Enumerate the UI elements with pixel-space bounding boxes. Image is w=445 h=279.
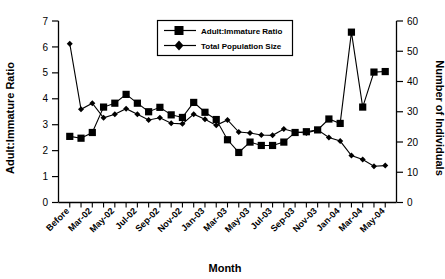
y-axis-right-tick-label: 0 <box>407 197 413 208</box>
square-data-marker <box>337 120 344 127</box>
square-data-marker <box>123 91 130 98</box>
diamond-data-marker <box>270 132 276 138</box>
x-axis-tick-label: Before <box>44 206 71 233</box>
x-axis-tick-label: Jan-04 <box>314 206 341 233</box>
square-data-marker <box>168 111 175 118</box>
square-data-marker <box>66 133 73 140</box>
square-data-marker <box>134 100 141 107</box>
y-axis-left-tick-label: 4 <box>42 93 48 104</box>
square-data-marker <box>280 138 287 145</box>
square-data-marker <box>77 135 84 142</box>
square-data-marker <box>359 103 366 110</box>
y-axis-left-tick-label: 1 <box>42 171 48 182</box>
y-axis-right-ticks: 0102030405060 <box>397 16 419 209</box>
y-axis-left-ticks: 01234567 <box>42 16 58 209</box>
chart-plot-area: Adult:Immature Ratio Number of Individua… <box>0 0 445 279</box>
x-axis-tick-label: Nov-03 <box>291 206 319 234</box>
square-data-marker <box>348 29 355 36</box>
y-axis-right-tick-label: 10 <box>407 167 419 178</box>
y-axis-right-title: Number of Individuals <box>434 60 445 176</box>
square-data-marker <box>258 142 265 149</box>
legend-label-adult-immature-ratio: Adult:Immature Ratio <box>201 27 282 36</box>
legend-label-total-population-size: Total Population Size <box>201 42 282 51</box>
legend-entry-adult-immature-ratio: Adult:Immature Ratio <box>164 26 282 36</box>
square-data-marker <box>201 109 208 116</box>
x-axis-tick-label: Nov-02 <box>156 206 184 234</box>
diamond-data-marker <box>123 106 129 112</box>
square-data-marker <box>156 104 163 111</box>
square-data-marker <box>100 103 107 110</box>
square-data-marker <box>179 114 186 121</box>
diamond-data-marker <box>134 111 140 117</box>
diamond-data-marker <box>202 116 208 122</box>
diamond-data-marker <box>371 163 377 169</box>
y-axis-left-tick-label: 0 <box>42 197 48 208</box>
x-axis-title: Month <box>209 262 242 274</box>
square-data-marker <box>303 128 310 135</box>
y-axis-left-tick-label: 7 <box>42 16 48 27</box>
diamond-data-marker <box>146 117 152 123</box>
x-axis-ticks <box>70 203 385 208</box>
square-data-marker <box>292 129 299 136</box>
square-data-marker <box>325 115 332 122</box>
square-data-marker <box>190 99 197 106</box>
x-axis-tick-labels: BeforeMar-02May-02Jul-02Sep-02Nov-02Jan-… <box>44 206 387 235</box>
square-data-marker <box>145 108 152 115</box>
x-axis-tick-label: May-04 <box>358 206 387 235</box>
y-axis-left-tick-label: 5 <box>42 67 48 78</box>
x-axis-tick-label: May-03 <box>223 206 252 235</box>
square-data-marker <box>111 100 118 107</box>
diamond-data-marker <box>112 111 118 117</box>
diamond-data-marker <box>258 132 264 138</box>
y-axis-left-title: Adult:Immature Ratio <box>4 62 16 174</box>
diamond-data-marker <box>382 163 388 169</box>
y-axis-right-tick-label: 40 <box>407 76 419 87</box>
square-marker-icon <box>175 26 184 35</box>
square-data-marker <box>314 126 321 133</box>
square-data-marker <box>269 142 276 149</box>
y-axis-left-tick-label: 3 <box>42 119 48 130</box>
diamond-data-marker <box>281 126 287 132</box>
square-data-marker <box>235 149 242 156</box>
square-data-marker <box>213 116 220 123</box>
diamond-data-marker <box>78 106 84 112</box>
y-axis-right-tick-label: 20 <box>407 137 419 148</box>
x-axis-tick-label: May-02 <box>88 206 117 235</box>
square-data-marker <box>246 138 253 145</box>
x-axis-tick-label: Jan-03 <box>179 206 206 233</box>
chart-figure: Month Adult:Immature Ratio Number of Ind… <box>0 0 445 279</box>
square-data-marker <box>370 68 377 75</box>
y-axis-right-tick-label: 60 <box>407 16 419 27</box>
y-axis-right-tick-label: 50 <box>407 46 419 57</box>
square-data-marker <box>224 136 231 143</box>
square-data-marker <box>89 129 96 136</box>
square-data-marker <box>382 68 389 75</box>
y-axis-left-tick-label: 6 <box>42 42 48 53</box>
diamond-data-marker <box>360 157 366 163</box>
diamond-data-marker <box>67 41 73 47</box>
y-axis-left-tick-label: 2 <box>42 145 48 156</box>
diamond-data-marker <box>247 130 253 136</box>
y-axis-right-tick-label: 30 <box>407 106 419 117</box>
chart-legend: Adult:Immature Ratio Total Population Si… <box>158 21 293 56</box>
diamond-data-marker <box>326 134 332 140</box>
diamond-data-marker <box>168 120 174 126</box>
diamond-data-marker <box>157 115 163 121</box>
